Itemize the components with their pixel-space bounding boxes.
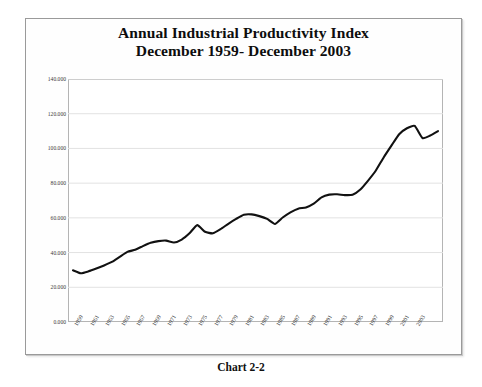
y-axis-tick-labels: 0.00020.00040.00060.00080.000100.000120.… [22,79,66,322]
gridlines [68,79,443,287]
chart-figure: Annual Industrial Productivity Index Dec… [0,0,482,387]
y-axis-tick-label: 120.000 [22,111,66,117]
y-axis-tick-label: 20.000 [22,284,66,290]
y-axis-tick-label: 40.000 [22,250,66,256]
y-axis-tick-label: 80.000 [22,180,66,186]
data-series-line [73,126,438,274]
chart-title-line-2: December 1959- December 2003 [25,42,462,60]
y-axis-tick-label: 60.000 [22,215,66,221]
x-axis-tick-labels: 1959196119631965196719691971197319751977… [68,322,443,356]
plot-area [68,79,443,322]
line-chart-svg [68,79,443,322]
y-axis-tick-label: 140.000 [22,76,66,82]
chart-title: Annual Industrial Productivity Index Dec… [25,24,462,60]
chart-title-line-1: Annual Industrial Productivity Index [118,24,369,41]
y-axis-tick-label: 0.000 [22,319,66,325]
y-axis-tick-label: 100.000 [22,145,66,151]
figure-caption: Chart 2-2 [0,361,482,373]
